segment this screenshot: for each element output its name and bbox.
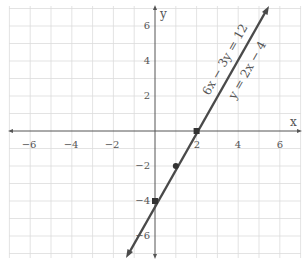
y-tick-label: 4 [144,55,150,66]
x-tick-label: 4 [235,139,241,150]
x-tick-label: −6 [22,139,37,150]
y-tick-label: −2 [135,160,150,171]
x-tick-label: −4 [64,139,79,150]
y-axis-up-arrow-icon [153,5,157,10]
y-tick-label: 2 [144,90,150,101]
coordinate-plane: x y −6 −4 −2 2 4 6 6 4 2 −2 −4 −6 6x − 3… [0,0,305,264]
y-axis-label: y [159,7,167,21]
x-axis-label: x [290,115,297,129]
x-tick-label: 6 [277,139,283,150]
x-tick-label: 2 [194,139,200,150]
line-top-arrow-icon [262,6,269,15]
x-axis-left-arrow-icon [8,129,13,133]
x-axis-right-arrow-icon [297,129,302,133]
point-1-neg2 [173,163,179,169]
point-2-0 [194,128,200,134]
x-tick-label: −2 [105,139,120,150]
y-tick-label: 6 [144,20,150,31]
y-tick-label: −4 [135,195,150,206]
y-axis-down-arrow-icon [153,254,157,259]
point-0-neg4 [152,198,158,204]
